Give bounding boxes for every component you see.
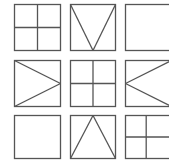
cell-border	[71, 5, 116, 51]
matrix-cell-quad-cross	[71, 61, 116, 107]
matrix-cell-triangle-left	[126, 61, 170, 107]
matrix-cell-quad-cross	[15, 5, 61, 51]
cell-border	[126, 5, 170, 51]
cell-border	[15, 61, 61, 107]
matrix-cell-triangle-up	[71, 116, 116, 159]
matrix-cell-empty	[15, 116, 61, 159]
matrix-cell-triangle-down	[71, 5, 116, 51]
cell-border	[71, 116, 116, 159]
matrix-cell-empty	[126, 5, 170, 51]
cell-border	[126, 61, 170, 107]
matrix-canvas	[0, 0, 169, 164]
matrix-cell-triangle-right	[15, 61, 61, 107]
cell-border	[15, 116, 61, 159]
matrix-cell-quad-cross-offset	[126, 116, 170, 159]
figure-matrix	[0, 0, 169, 164]
